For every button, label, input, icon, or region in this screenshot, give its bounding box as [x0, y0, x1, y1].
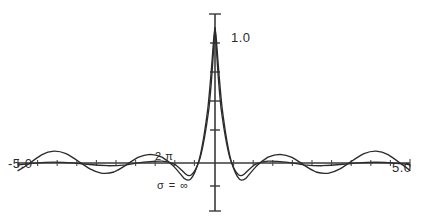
sinc-figure: -5.0 5.0 1.0 2 π σ = ∞: [0, 0, 429, 220]
two-pi-marker-label: 2 π: [155, 150, 173, 162]
y-axis-max-label: 1.0: [231, 30, 251, 45]
sigma-annotation-label: σ = ∞: [157, 179, 189, 191]
x-axis-min-label: -5.0: [8, 156, 32, 171]
plot-canvas: [0, 0, 429, 220]
curve-apodized-finite-sigma: [18, 28, 410, 176]
x-axis-max-label: 5.0: [392, 160, 412, 175]
